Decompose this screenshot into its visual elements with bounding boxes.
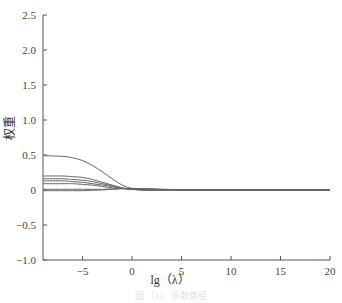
y-tick-label: −0.5 (16, 219, 36, 231)
figure-caption: 图 （λ） 系数路径 (0, 289, 342, 302)
y-axis-ticks: 2.52.01.51.00.50−0.5−1.0 (16, 9, 47, 266)
y-tick-label: 2.5 (22, 9, 36, 21)
y-tick-label: 1.5 (22, 79, 36, 91)
chart: 2.52.01.51.00.50−0.5−1.0 −505101520 lg（λ… (0, 0, 342, 303)
y-tick-label: 2.0 (22, 44, 36, 56)
y-tick-label: −1.0 (16, 254, 36, 266)
y-tick-label: 0 (31, 184, 37, 196)
x-tick-label: 15 (275, 265, 287, 277)
x-tick-label: 10 (226, 265, 238, 277)
coefficient-paths (43, 156, 330, 191)
coefficient-path-coef4 (43, 181, 330, 190)
x-axis-ticks: −505101520 (77, 256, 336, 277)
x-axis-label: lg（λ） (150, 273, 189, 287)
x-tick-label: 0 (129, 265, 135, 277)
x-tick-label: 20 (325, 265, 337, 277)
y-tick-label: 1.0 (22, 114, 36, 126)
y-axis-label: 权重 (3, 116, 17, 140)
x-tick-label: −5 (77, 265, 89, 277)
y-tick-label: 0.5 (22, 149, 36, 161)
